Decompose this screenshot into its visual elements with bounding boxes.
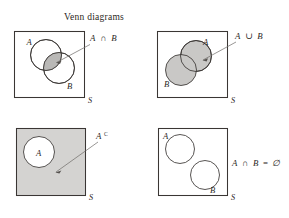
panel-intersection: A B S A ∩ B — [15, 32, 118, 106]
circle-a-disjoint — [166, 135, 195, 164]
panel-disjoint: A B S A ∩ B = ∅ — [159, 129, 281, 203]
label-s-disjoint: S — [231, 193, 235, 202]
panel-complement: A S A C — [17, 129, 108, 203]
expr-empty-disjoint: ∅ — [272, 158, 280, 168]
label-a-disjoint: A — [162, 131, 169, 141]
label-s-intersection: S — [88, 96, 92, 105]
label-s-complement: S — [89, 193, 93, 202]
expression-disjoint: A ∩ B = ∅ — [231, 158, 280, 168]
label-b-intersection: B — [67, 81, 73, 91]
universe-box-disjoint — [159, 129, 228, 196]
label-a-union: A — [202, 37, 209, 47]
expr-op-disjoint: ∩ — [242, 158, 248, 168]
label-b-union: B — [164, 79, 170, 89]
expr-superscript-complement: C — [104, 131, 108, 137]
expr-op-union: ∪ — [245, 31, 252, 41]
label-a-complement: A — [35, 148, 42, 158]
expression-intersection: A ∩ B — [89, 33, 117, 43]
expr-eq-disjoint: = — [263, 158, 268, 168]
expr-right-union: B — [257, 31, 263, 41]
expr-left-intersection: A — [89, 33, 96, 43]
figure-title: Venn diagrams — [64, 12, 124, 22]
expr-right-intersection: B — [111, 33, 117, 43]
label-s-union: S — [231, 96, 235, 105]
label-a-intersection: A — [26, 37, 33, 47]
panel-union: A B S A ∪ B — [158, 31, 264, 105]
expr-right-disjoint: B — [253, 158, 259, 168]
expr-left-complement: A — [95, 131, 102, 141]
venn-diagrams-figure: Venn diagrams A B S A ∩ B — [0, 0, 289, 218]
expr-op-intersection: ∩ — [100, 33, 106, 43]
expression-complement: A C — [95, 131, 108, 141]
label-b-disjoint: B — [210, 185, 216, 195]
expr-left-disjoint: A — [231, 158, 238, 168]
expression-union: A ∪ B — [234, 31, 263, 41]
expr-left-union: A — [234, 31, 241, 41]
